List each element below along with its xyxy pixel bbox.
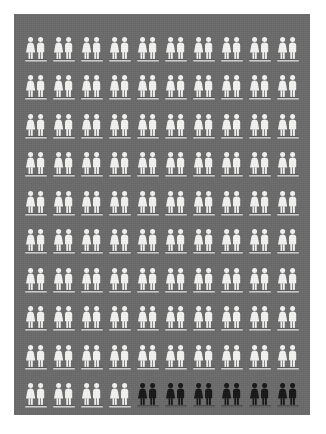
- pictogram-unit: [162, 255, 190, 294]
- baseline-bar-icon: [25, 291, 47, 292]
- baseline-bar-icon: [249, 175, 271, 176]
- people-pair-icon-glyph: [52, 151, 76, 178]
- pictogram-unit: [274, 332, 302, 371]
- people-pair-icon-glyph: [192, 305, 216, 332]
- female-figure-icon: [278, 113, 287, 135]
- people-pair-icon-glyph: [164, 113, 188, 140]
- people-pair-icon-glyph: [164, 267, 188, 294]
- baseline-bar-icon: [53, 252, 75, 253]
- baseline-bar-icon: [137, 175, 159, 176]
- people-pair-icon-glyph: [192, 382, 216, 409]
- female-figure-icon: [222, 344, 231, 366]
- pictogram-unit: [106, 371, 134, 410]
- female-figure-icon: [138, 383, 147, 405]
- baseline-bar-icon: [249, 98, 271, 99]
- male-figure-icon: [37, 267, 44, 289]
- baseline-bar-icon: [277, 137, 299, 138]
- pictogram-unit: [274, 140, 302, 179]
- pictogram-unit: [50, 63, 78, 102]
- male-figure-icon: [149, 306, 156, 328]
- female-figure-icon: [222, 113, 231, 135]
- people-pair-icon-glyph: [108, 151, 132, 178]
- male-figure-icon: [177, 190, 184, 212]
- female-figure-icon: [194, 36, 203, 58]
- people-pair-icon-glyph: [164, 228, 188, 255]
- pictogram-unit: [190, 294, 218, 333]
- pictogram-unit: [246, 140, 274, 179]
- people-pair-icon-glyph: [52, 113, 76, 140]
- pictogram-unit: [274, 178, 302, 217]
- people-pair-icon-glyph: [164, 305, 188, 332]
- baseline-bar-icon: [221, 368, 243, 369]
- people-pair-icon-glyph: [220, 267, 244, 294]
- pictogram-unit: [162, 63, 190, 102]
- people-pair-icon-glyph: [248, 151, 272, 178]
- pictogram-unit: [22, 255, 50, 294]
- female-figure-icon: [110, 306, 119, 328]
- female-figure-icon: [250, 383, 259, 405]
- female-figure-icon: [166, 36, 175, 58]
- baseline-bar-icon: [165, 406, 187, 407]
- male-figure-icon: [93, 229, 100, 251]
- people-pair-icon-glyph: [164, 344, 188, 371]
- female-figure-icon: [110, 36, 119, 58]
- male-figure-icon: [261, 229, 268, 251]
- male-figure-icon: [149, 267, 156, 289]
- pictogram-unit: [246, 255, 274, 294]
- male-figure-icon: [289, 75, 296, 97]
- pictogram-unit: [50, 294, 78, 333]
- male-figure-icon: [205, 267, 212, 289]
- male-figure-icon: [93, 152, 100, 174]
- female-figure-icon: [222, 383, 231, 405]
- pictogram-unit: [78, 371, 106, 410]
- female-figure-icon: [194, 383, 203, 405]
- people-pair-icon-glyph: [164, 382, 188, 409]
- people-pair-icon-glyph: [80, 74, 104, 101]
- baseline-bar-icon: [109, 368, 131, 369]
- pictogram-unit: [50, 24, 78, 63]
- male-figure-icon: [289, 383, 296, 405]
- people-pair-icon-glyph: [24, 113, 48, 140]
- pictogram-unit: [190, 63, 218, 102]
- people-pair-icon-glyph: [52, 74, 76, 101]
- people-pair-icon-glyph: [192, 190, 216, 217]
- male-figure-icon: [233, 190, 240, 212]
- pictogram-unit: [78, 140, 106, 179]
- people-pair-icon-glyph: [220, 190, 244, 217]
- female-figure-icon: [166, 75, 175, 97]
- baseline-bar-icon: [165, 98, 187, 99]
- baseline-bar-icon: [249, 214, 271, 215]
- people-pair-icon-glyph: [220, 344, 244, 371]
- female-figure-icon: [82, 229, 91, 251]
- pictogram-unit: [50, 255, 78, 294]
- female-figure-icon: [222, 36, 231, 58]
- baseline-bar-icon: [249, 329, 271, 330]
- male-figure-icon: [121, 75, 128, 97]
- pictogram-unit: [22, 101, 50, 140]
- baseline-bar-icon: [81, 60, 103, 61]
- people-pair-icon-glyph: [192, 228, 216, 255]
- pictogram-unit: [22, 178, 50, 217]
- baseline-bar-icon: [193, 175, 215, 176]
- people-pair-icon-glyph: [108, 305, 132, 332]
- female-figure-icon: [54, 306, 63, 328]
- baseline-bar-icon: [277, 214, 299, 215]
- female-figure-icon: [138, 344, 147, 366]
- pictogram-unit: [106, 332, 134, 371]
- pictogram-unit: [22, 63, 50, 102]
- baseline-bar-icon: [193, 329, 215, 330]
- female-figure-icon: [110, 229, 119, 251]
- baseline-bar-icon: [137, 406, 159, 407]
- pictogram-unit: [190, 24, 218, 63]
- baseline-bar-icon: [81, 329, 103, 330]
- female-figure-icon: [82, 75, 91, 97]
- people-pair-icon-glyph: [276, 190, 300, 217]
- pictogram-chart: [0, 0, 326, 434]
- people-pair-icon-glyph: [220, 382, 244, 409]
- people-pair-icon-glyph: [192, 344, 216, 371]
- baseline-bar-icon: [109, 137, 131, 138]
- male-figure-icon: [261, 36, 268, 58]
- female-figure-icon: [250, 36, 259, 58]
- baseline-bar-icon: [137, 214, 159, 215]
- male-figure-icon: [65, 113, 72, 135]
